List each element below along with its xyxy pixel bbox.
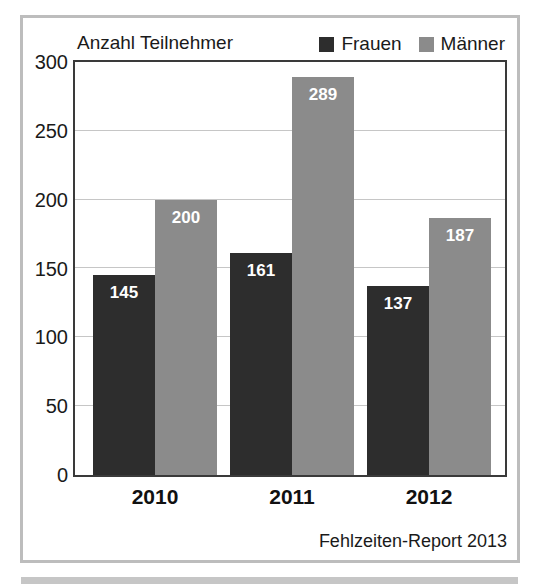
x-tick-label-2012: 2012 — [359, 485, 499, 509]
legend-label-maenner: Männer — [441, 33, 505, 55]
y-tick-label-250: 250 — [23, 119, 68, 143]
bar-frauen-2012: 137 — [367, 286, 429, 475]
chart-title: Anzahl Teilnehmer — [77, 32, 233, 54]
x-tick-label-2011: 2011 — [222, 485, 362, 509]
y-tick-label-0: 0 — [23, 463, 68, 487]
bar-frauen-2011: 161 — [230, 253, 292, 475]
bar-value-label-frauen-2010: 145 — [93, 283, 155, 303]
x-tick-label-2010: 2010 — [85, 485, 225, 509]
next-figure-top-edge — [21, 577, 518, 584]
bar-frauen-2010: 145 — [93, 275, 155, 475]
source-label: Fehlzeiten-Report 2013 — [319, 531, 507, 552]
bar-männer-2011: 289 — [292, 77, 354, 475]
legend-item-frauen: Frauen — [319, 33, 401, 55]
bar-value-label-männer-2011: 289 — [292, 85, 354, 105]
gridline-250 — [75, 130, 505, 131]
legend: Frauen Männer — [319, 33, 505, 55]
bar-value-label-männer-2010: 200 — [155, 208, 217, 228]
legend-item-maenner: Männer — [419, 33, 505, 55]
y-tick-label-50: 50 — [23, 394, 68, 418]
plot-area: 145200161289137187 — [73, 60, 507, 477]
y-tick-label-300: 300 — [23, 50, 68, 74]
bar-value-label-frauen-2011: 161 — [230, 261, 292, 281]
legend-swatch-frauen — [319, 37, 334, 52]
y-tick-label-150: 150 — [23, 257, 68, 281]
y-tick-label-200: 200 — [23, 188, 68, 212]
bar-value-label-frauen-2012: 137 — [367, 294, 429, 314]
figure-frame: Anzahl Teilnehmer Frauen Männer 14520016… — [20, 15, 520, 563]
bar-männer-2010: 200 — [155, 200, 217, 475]
legend-label-frauen: Frauen — [341, 33, 401, 55]
gridline-200 — [75, 199, 505, 200]
y-tick-label-100: 100 — [23, 325, 68, 349]
bar-männer-2012: 187 — [429, 218, 491, 475]
legend-swatch-maenner — [419, 37, 434, 52]
bar-value-label-männer-2012: 187 — [429, 226, 491, 246]
